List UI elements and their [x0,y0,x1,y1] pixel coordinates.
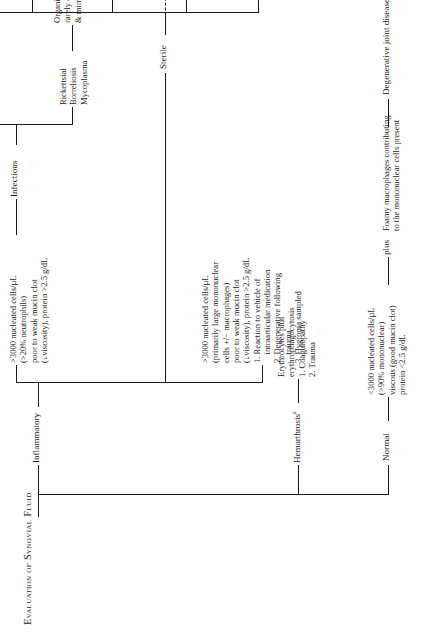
atypical-organisms-text: Rickettsial Borreliosis Mycoplasma [58,61,89,105]
normal-findings-connector [388,397,389,421]
noninfectious-findings-connector [262,365,263,383]
root-stem [38,495,39,517]
hemarthrosis-findings-connector [298,379,299,403]
flowchart-canvas: Evaluation of Synovial Fluid Inflammator… [0,0,427,635]
normal-label: Normal [381,433,392,461]
normal-plus-findings-text: Foamy macrophages contributing to the mo… [381,115,402,231]
normal-plus-connector [388,257,389,285]
figure-title: Evaluation of Synovial Fluid [22,492,33,625]
infectious-findings-text: >3000 nucleated cells/µL (>20% neutrophi… [8,258,49,363]
inflammatory-split-stem [38,383,39,407]
normal-findings-text: <3000 nucleated cells/µL (>90% mononucle… [366,305,407,395]
inflammatory-label: Inflammatory [31,413,42,463]
infectious-split-spine [0,124,72,125]
hemarthrosis-footnote-marker: a [291,412,297,415]
root-spine [38,494,388,495]
normal-plus-label: plus [381,240,392,255]
atypical-note-connector [72,25,73,51]
normal-connector [388,465,389,495]
inflammatory-split-spine [16,382,262,383]
sterile-outcome-connector-0 [258,0,259,13]
normal-outcome-connector [388,99,389,127]
normal-outcome-label: Degenerative joint disease [381,0,392,95]
sterile-outcome-connector-1 [186,0,187,13]
hemarthrosis-connector [298,465,299,495]
infectious-label: Infectious [9,161,20,197]
hemarthrosis-label-text: Hemarthrosis [292,414,302,463]
sterile-outcomes-spine [0,12,258,13]
infectious-split-stem [16,125,17,145]
atypical-connector [72,107,73,125]
hemarthrosis-label: Hemarthrosisa [291,412,303,464]
sterile-outcome-connector-2 [112,0,113,13]
infectious-label-connector [16,199,17,235]
sterile-label: Sterile [158,45,169,69]
inflammatory-connector [38,465,39,495]
sterile-run [165,73,166,383]
sterile-out-connector [165,13,166,35]
hemarthrosis-findings-text: Erythrocytes plus erythrophagocytosis 1.… [276,307,317,377]
sterile-outcome-connector-3 [32,0,33,13]
infectious-findings-connector [16,365,17,383]
